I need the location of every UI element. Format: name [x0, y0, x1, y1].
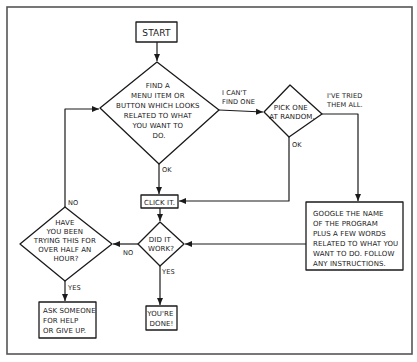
- flowchart: START FIND A MENU ITEM OR BUTTON WHICH L…: [0, 0, 417, 362]
- node-ask-someone: ASK SOMEONE FOR HELP OR GIVE UP.: [39, 302, 98, 338]
- node-click-it: CLICK IT.: [141, 195, 178, 208]
- edge-half-no-loop: [65, 109, 99, 207]
- node-google: GOOGLE THE NAME OF THE PROGRAM PLUS A FE…: [306, 202, 403, 270]
- pick-random-label: PICK ONE AT RANDOM.: [269, 104, 315, 121]
- edge-label-half-yes: YES: [67, 284, 81, 292]
- node-half-hour: HAVE YOU BEEN TRYING THIS FOR OVER HALF …: [20, 207, 112, 281]
- node-start: START: [136, 22, 177, 42]
- edge-tried-all: [322, 114, 358, 201]
- node-did-it-work: DID IT WORK?: [138, 222, 184, 266]
- node-pick-random: PICK ONE AT RANDOM.: [264, 85, 322, 137]
- edge-pick-ok: [179, 137, 289, 201]
- edge-label-tried-all: I'VE TRIED THEM ALL.: [326, 92, 365, 109]
- edge-label-find-ok: OK: [162, 166, 172, 174]
- did-it-work-label: DID IT WORK?: [148, 236, 174, 253]
- edge-label-half-no: NO: [68, 199, 78, 207]
- start-label: START: [142, 28, 171, 38]
- edge-label-pick-ok: OK: [292, 141, 302, 149]
- edge-label-cant-find: I CAN'T FIND ONE: [222, 89, 255, 106]
- edge-label-work-yes: YES: [161, 268, 175, 276]
- edge-cant-find: [219, 110, 263, 112]
- node-done: YOU'RE DONE!: [146, 306, 177, 330]
- edge-label-work-no: NO: [123, 249, 133, 257]
- node-find-item: FIND A MENU ITEM OR BUTTON WHICH LOOKS R…: [100, 62, 219, 164]
- click-it-label: CLICK IT.: [144, 199, 175, 207]
